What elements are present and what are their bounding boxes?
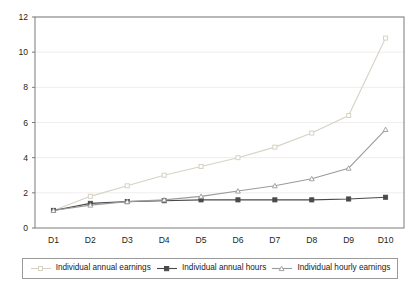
data-point [162, 197, 167, 201]
data-point [88, 194, 92, 198]
y-tick-label: 6 [23, 118, 28, 128]
x-tick-label: D9 [343, 235, 354, 245]
data-point [383, 195, 387, 199]
x-tick-label: D1 [48, 235, 59, 245]
data-point [309, 176, 314, 180]
legend-swatch-annual-earnings [30, 264, 52, 273]
data-point [347, 197, 351, 201]
x-tick-label: D10 [378, 235, 394, 245]
x-tick-label: D6 [232, 235, 243, 245]
x-tick-label: D7 [269, 235, 280, 245]
data-point [236, 198, 240, 202]
legend-item-annual-hours: Individual annual hours [156, 264, 266, 273]
legend-item-annual-earnings: Individual annual earnings [30, 264, 151, 273]
data-point [310, 198, 314, 202]
legend-swatch-hourly-earnings [271, 264, 293, 273]
series-line [53, 130, 385, 211]
data-point [199, 194, 204, 198]
data-point [384, 36, 388, 40]
legend-label-hourly-earnings: Individual hourly earnings [297, 264, 390, 272]
y-tick-label: 2 [23, 188, 28, 198]
data-point [162, 173, 166, 177]
legend-item-hourly-earnings: Individual hourly earnings [271, 264, 390, 273]
legend-label-annual-earnings: Individual annual earnings [56, 264, 151, 272]
data-point [272, 183, 277, 187]
y-axis-tick-labels: 024681012 [18, 12, 35, 233]
x-tick-label: D4 [159, 235, 170, 245]
line-chart: 024681012 D1D2D3D4D5D6D7D8D9D10 [0, 0, 420, 258]
y-tick-label: 0 [23, 223, 28, 233]
data-series-layer [51, 36, 388, 212]
data-point [236, 156, 240, 160]
data-point [347, 113, 351, 117]
x-tick-label: D8 [306, 235, 317, 245]
chart-container: 024681012 D1D2D3D4D5D6D7D8D9D10 Individu… [0, 0, 420, 290]
x-tick-label: D5 [196, 235, 207, 245]
legend-label-annual-hours: Individual annual hours [182, 264, 266, 272]
y-tick-label: 12 [18, 12, 28, 22]
series-individual-annual-earnings [51, 36, 387, 212]
legend-swatch-annual-hours [156, 264, 178, 273]
data-point [273, 145, 277, 149]
x-tick-label: D2 [85, 235, 96, 245]
y-tick-label: 8 [23, 82, 28, 92]
x-axis-tick-labels: D1D2D3D4D5D6D7D8D9D10 [48, 235, 394, 245]
chart-legend: Individual annual earnings Individual an… [22, 258, 398, 279]
data-point [383, 127, 388, 131]
x-tick-label: D3 [122, 235, 133, 245]
data-point [273, 198, 277, 202]
y-tick-label: 10 [18, 47, 28, 57]
series-line [53, 38, 385, 210]
data-point [199, 164, 203, 168]
data-point [125, 184, 129, 188]
data-point [310, 131, 314, 135]
data-point [236, 189, 241, 193]
y-tick-label: 4 [23, 153, 28, 163]
